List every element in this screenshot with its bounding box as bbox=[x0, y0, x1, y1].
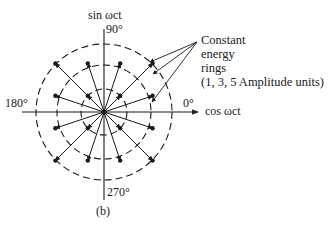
symbol-vector bbox=[104, 63, 120, 112]
symbol-vector bbox=[104, 96, 153, 112]
symbol-point bbox=[118, 61, 122, 65]
annotation-line: rings bbox=[201, 61, 324, 75]
symbol-point bbox=[150, 94, 154, 98]
annotation-line: (1, 3, 5 Amplitude units) bbox=[201, 75, 324, 89]
annotation-line: energy bbox=[201, 47, 324, 61]
annotation-leader-lines bbox=[150, 42, 197, 102]
symbol-vector bbox=[55, 112, 104, 128]
symbol-vector bbox=[55, 63, 104, 112]
symbol-vector bbox=[88, 63, 104, 112]
symbol-point bbox=[53, 126, 57, 130]
symbol-point bbox=[53, 158, 57, 162]
symbol-vector bbox=[104, 112, 153, 161]
symbol-point bbox=[150, 158, 154, 162]
symbol-vector bbox=[104, 63, 153, 112]
angle-label-180: 180° bbox=[5, 97, 28, 110]
annotation-line: Constant bbox=[201, 33, 324, 47]
symbol-point bbox=[86, 61, 90, 65]
symbol-point bbox=[150, 126, 154, 130]
origin-dot bbox=[101, 109, 106, 114]
x-axis-label: cos ωct bbox=[205, 105, 241, 118]
figure-caption: (b) bbox=[96, 205, 110, 218]
y-axis-label: sin ωct bbox=[88, 9, 122, 22]
symbol-vector bbox=[88, 112, 104, 161]
angle-label-0: 0° bbox=[183, 97, 194, 110]
angle-label-90: 90° bbox=[106, 23, 123, 36]
angle-label-270: 270° bbox=[107, 186, 130, 199]
symbol-vector bbox=[104, 112, 120, 161]
symbol-point bbox=[86, 158, 90, 162]
symbol-vector bbox=[104, 112, 153, 128]
symbol-point bbox=[53, 61, 57, 65]
constant-energy-annotation: Constant energy rings (1, 3, 5 Amplitude… bbox=[201, 33, 324, 89]
symbol-point bbox=[118, 158, 122, 162]
symbol-vector bbox=[55, 96, 104, 112]
symbol-vector bbox=[55, 112, 104, 161]
symbol-point bbox=[53, 94, 57, 98]
